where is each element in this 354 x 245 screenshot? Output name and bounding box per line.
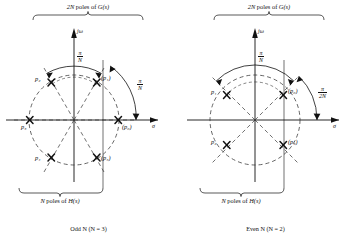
pole-p0-label-odd: (p₀) <box>122 124 132 130</box>
angle-pi-over-n-right-odd: π N <box>137 78 143 91</box>
odd-n-plot <box>0 0 177 245</box>
pole-p2-marker <box>224 142 231 149</box>
imaginary-axis-even <box>252 28 258 182</box>
pole-p0-marker <box>280 92 287 99</box>
panel-even-n: 2N poles of G(s) N poles of H(s) <box>177 0 354 245</box>
imag-axis-label-odd: jω <box>77 28 83 34</box>
real-axis-label-even: σ <box>333 123 336 129</box>
pole-p4-label-odd: p₄ <box>35 155 40 161</box>
angle-arc-right-odd <box>110 66 140 120</box>
bottom-brace-odd <box>19 188 103 197</box>
pole-p1-marker <box>224 92 231 99</box>
pole-p3-marker <box>280 142 287 149</box>
pole-pattern-figure: 2N poles of G(s) N poles of H(s) <box>0 0 354 245</box>
caption-even-n: Even N (N = 2) <box>177 226 354 232</box>
bottom-brace-even <box>200 188 284 197</box>
pole-p3-label-even: (p₃) <box>288 139 298 145</box>
pole-p2-label-even: p₂ <box>211 139 216 145</box>
pole-p1-label-odd: (p₁) <box>101 75 111 81</box>
imaginary-axis-odd <box>71 28 77 182</box>
pole-p3-label-odd: p₃ <box>21 124 26 130</box>
caption-odd-n: Odd N (N = 3) <box>0 226 177 232</box>
angle-pi-over-n-top-even: π N <box>258 50 264 63</box>
top-brace-odd <box>33 12 143 21</box>
panel-odd-n: 2N poles of G(s) N poles of H(s) <box>0 0 177 245</box>
pole-p2-label-odd: p₂ <box>35 76 40 82</box>
imag-axis-label-even: jω <box>258 28 264 34</box>
top-brace-even <box>214 12 324 21</box>
angle-arc-right-even <box>297 76 321 120</box>
pole-p0-label-even: (p₀) <box>288 88 298 94</box>
pole-p1-label-even: p₁ <box>211 89 216 95</box>
pole-p5-label-odd: (p₅) <box>101 155 111 161</box>
angle-pi-over-2n-right-even: π 2N <box>318 86 327 99</box>
angle-pi-over-n-top-odd: π N <box>77 50 83 63</box>
even-n-plot <box>177 0 354 245</box>
real-axis-label-odd: σ <box>152 123 155 129</box>
